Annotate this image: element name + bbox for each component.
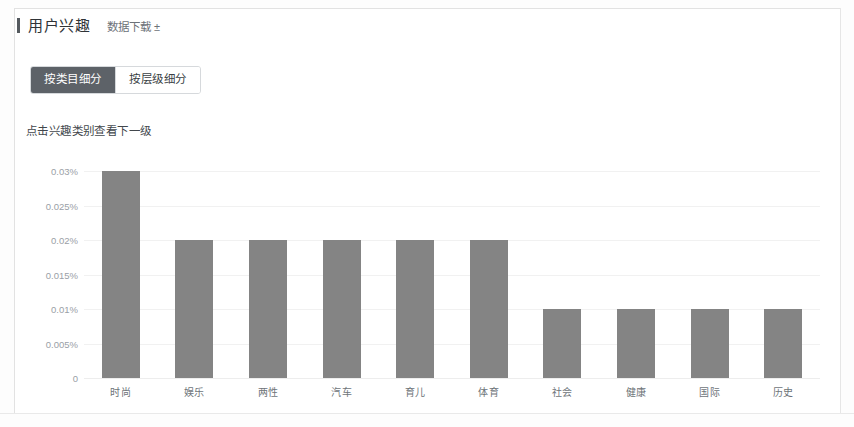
y-axis-tick-label: 0.015% <box>26 269 78 280</box>
chart-bar[interactable] <box>764 309 802 378</box>
y-axis-tick-label: 0 <box>26 373 78 384</box>
x-axis-tick-label[interactable]: 娱乐 <box>184 384 205 399</box>
card-bottom-edge <box>0 413 854 414</box>
x-axis-tick-label[interactable]: 时尚 <box>110 384 131 399</box>
x-axis-tick-label[interactable]: 历史 <box>773 384 794 399</box>
x-axis-tick-label[interactable]: 两性 <box>258 384 279 399</box>
chart-bar[interactable] <box>396 240 434 378</box>
y-axis-tick-label: 0.025% <box>26 200 78 211</box>
x-axis-tick-label[interactable]: 健康 <box>626 384 647 399</box>
page-title: 用户兴趣 <box>28 17 90 35</box>
chart-bar[interactable] <box>543 309 581 378</box>
gridline <box>84 206 820 207</box>
gridline <box>84 378 820 379</box>
chart-bar[interactable] <box>102 171 140 378</box>
x-axis-tick-label[interactable]: 国际 <box>699 384 720 399</box>
chart-bar[interactable] <box>691 309 729 378</box>
data-download-link[interactable]: 数据下载± <box>107 18 160 36</box>
x-axis-tick-label[interactable]: 育儿 <box>405 384 426 399</box>
chart-plot-area <box>84 171 820 378</box>
x-axis-tick-label[interactable]: 体育 <box>478 384 499 399</box>
data-download-label: 数据下载 <box>107 21 151 33</box>
y-axis-ticks: 0.03%0.025%0.02%0.015%0.01%0.005%0 <box>26 171 78 378</box>
chart-bar[interactable] <box>470 240 508 378</box>
screen-root: 用户兴趣 数据下载± 按类目细分 按层级细分 点击兴趣类别查看下一级 0.03%… <box>0 0 854 427</box>
tab-by-category[interactable]: 按类目细分 <box>31 67 115 93</box>
title-accent-bar <box>17 18 20 33</box>
chart-hint-text: 点击兴趣类别查看下一级 <box>26 122 151 138</box>
y-axis-tick-label: 0.005% <box>26 338 78 349</box>
y-axis-tick-label: 0.02% <box>26 235 78 246</box>
chart-bar[interactable] <box>249 240 287 378</box>
panel-header: 用户兴趣 数据下载± <box>17 16 160 36</box>
download-icon: ± <box>154 21 160 33</box>
x-axis-tick-label[interactable]: 社会 <box>552 384 573 399</box>
chart-bar[interactable] <box>323 240 361 378</box>
card-right-edge <box>840 8 841 414</box>
x-axis-tick-label[interactable]: 汽车 <box>331 384 352 399</box>
y-axis-tick-label: 0.01% <box>26 304 78 315</box>
chart-bar[interactable] <box>617 309 655 378</box>
interest-bar-chart: 0.03%0.025%0.02%0.015%0.01%0.005%0 时尚娱乐两… <box>26 160 826 405</box>
breakdown-tab-group: 按类目细分 按层级细分 <box>30 66 201 94</box>
chart-bar[interactable] <box>175 240 213 378</box>
gridline <box>84 171 820 172</box>
tab-by-level[interactable]: 按层级细分 <box>115 67 200 93</box>
y-axis-tick-label: 0.03% <box>26 166 78 177</box>
